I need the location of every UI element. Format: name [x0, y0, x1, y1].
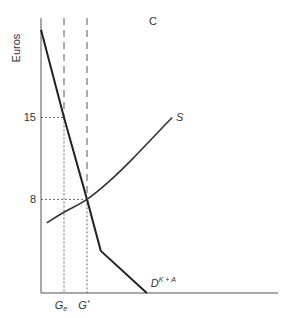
y-axis-label: Euros: [10, 33, 22, 62]
series-group: [41, 30, 172, 293]
x-tick-label: G*: [78, 299, 90, 311]
supply-curve: [47, 117, 172, 222]
y-tick-label: 8: [30, 193, 36, 205]
demand-label: DK + A: [151, 276, 176, 289]
labels: EurosC158GeG*DK + AS: [10, 15, 184, 312]
supply-label: S: [176, 111, 184, 123]
panel-label: C: [149, 15, 157, 27]
y-tick-label: 15: [24, 111, 36, 123]
axes: [41, 18, 278, 293]
x-tick-label: Ge: [55, 299, 68, 312]
chart: EurosC158GeG*DK + AS: [0, 0, 289, 318]
